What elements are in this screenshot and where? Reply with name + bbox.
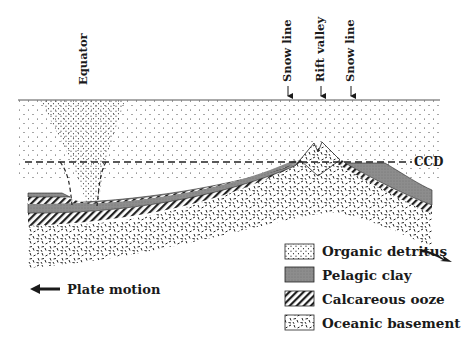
- rift-valley-marker: Rift valley: [313, 17, 327, 96]
- ccd-label: CCD: [414, 155, 444, 169]
- calcareous-ooze-swatch: [285, 291, 314, 306]
- sediment-cross-section-diagram: CCD Equator Snow line Rift valley Snow l…: [0, 0, 462, 355]
- organic-detritus-swatch: [285, 244, 314, 259]
- equator-label: Equator: [76, 32, 90, 85]
- legend-label: Organic detritus: [322, 243, 447, 259]
- pelagic-clay-swatch: [285, 267, 314, 282]
- legend-item-calcareous-ooze: Calcareous ooze: [285, 291, 445, 307]
- oceanic-basement-swatch: [285, 315, 314, 330]
- legend-item-pelagic-clay: Pelagic clay: [285, 267, 413, 283]
- snow-line-left-label: Snow line: [280, 19, 294, 82]
- snow-line-right-label: Snow line: [343, 19, 357, 82]
- snow-line-left-marker: Snow line: [280, 19, 294, 96]
- legend: Organic detritus Pelagic clay Calcareous…: [285, 243, 461, 331]
- legend-label: Oceanic basement: [322, 315, 461, 331]
- legend-label: Pelagic clay: [322, 267, 413, 283]
- pelagic-clay-top-left: [28, 193, 70, 197]
- rift-valley-label: Rift valley: [313, 17, 327, 82]
- plate-motion-label: Plate motion: [67, 282, 161, 297]
- legend-item-oceanic-basement: Oceanic basement: [285, 315, 461, 331]
- legend-label: Calcareous ooze: [322, 291, 445, 307]
- arrow-left-icon: [30, 284, 60, 294]
- plate-motion-indicator: Plate motion: [30, 282, 161, 297]
- snow-line-right-marker: Snow line: [343, 19, 357, 96]
- legend-item-organic-detritus: Organic detritus: [285, 243, 452, 262]
